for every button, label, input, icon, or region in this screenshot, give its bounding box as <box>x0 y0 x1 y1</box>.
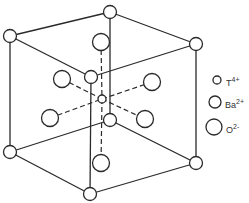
ti-atom <box>98 95 106 103</box>
legend-ba-symbol <box>209 96 221 108</box>
legend-o-symbol-text: O <box>226 125 233 135</box>
legend-o-label: O2- <box>226 123 239 135</box>
legend-ba-symbol-text: Ba <box>225 100 236 110</box>
legend-o-charge: 2- <box>233 123 239 130</box>
legend-ti-charge: 4+ <box>232 76 240 83</box>
legend-symbols <box>206 76 222 135</box>
unit-cell-diagram <box>0 0 249 203</box>
legend-ba-charge: 2+ <box>236 98 244 105</box>
legend-ba-label: Ba2+ <box>225 98 244 110</box>
legend-o-symbol <box>206 119 222 135</box>
legend-ti-label: T4+ <box>226 76 239 88</box>
legend-ti-symbol <box>213 76 221 84</box>
